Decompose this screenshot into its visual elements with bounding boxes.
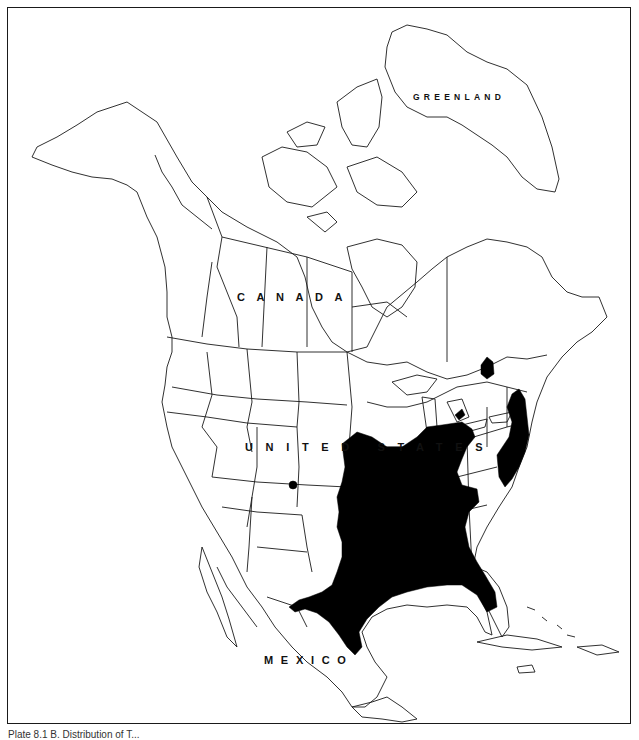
mexico-lines — [217, 567, 307, 627]
range-new-mexico-outlier — [289, 481, 297, 489]
range-northeast-outlier — [481, 357, 494, 379]
baja-california — [199, 547, 237, 647]
north-america-map — [7, 7, 631, 724]
label-greenland: GREENLAND — [413, 92, 505, 102]
hudson-bay — [347, 239, 417, 317]
label-united-states: UNITED STATES — [245, 441, 495, 453]
range-east-coast — [497, 389, 529, 487]
range-main — [289, 422, 497, 655]
label-canada: CANADA — [237, 291, 354, 303]
figure-caption: Plate 8.1 B. Distribution of T... — [8, 729, 140, 740]
alaska-border — [155, 155, 212, 229]
range-ontario-outlier — [455, 409, 465, 420]
central-america — [352, 697, 417, 722]
caribbean-islands — [477, 607, 619, 673]
label-mexico: MEXICO — [264, 654, 354, 666]
arctic-islands — [262, 79, 417, 232]
greenland-outline — [385, 25, 559, 192]
